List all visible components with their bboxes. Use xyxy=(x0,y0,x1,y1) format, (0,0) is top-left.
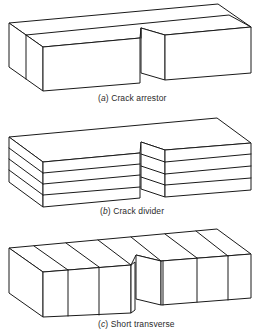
figure-crack-arrestor: (a) Crack arrestor xyxy=(0,0,261,110)
figure-label-a: (a) xyxy=(98,93,109,103)
figure-crack-divider: (b) Crack divider xyxy=(0,110,261,222)
figure-label-c: (c) xyxy=(98,319,108,329)
figure-title-b: Crack divider xyxy=(113,206,164,216)
figure-title-c: Short transverse xyxy=(111,319,175,329)
caption-crack-divider: (b) Crack divider xyxy=(100,206,164,216)
figure-label-b: (b) xyxy=(100,206,111,216)
figure-short-transverse: (c) Short transverse xyxy=(0,222,261,333)
short-transverse-diagram xyxy=(0,222,261,333)
figure-title-a: Crack arrestor xyxy=(111,93,166,103)
caption-short-transverse: (c) Short transverse xyxy=(98,319,175,329)
caption-crack-arrestor: (a) Crack arrestor xyxy=(98,93,166,103)
